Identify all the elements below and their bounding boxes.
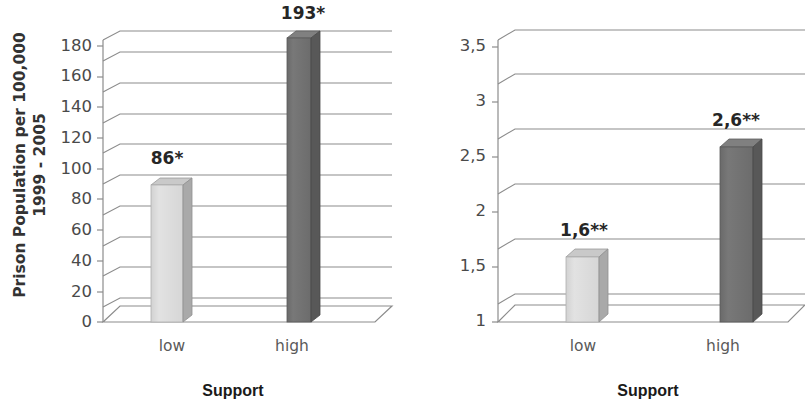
right-ytick-1: 1	[440, 311, 486, 330]
right-category-low: low	[543, 337, 623, 355]
left-bar-low[interactable]	[151, 178, 192, 322]
left-ytick-140: 140	[46, 97, 92, 116]
left-bar-high[interactable]	[287, 31, 320, 322]
left-ytick-120: 120	[46, 128, 92, 147]
left-x-axis-title: Support	[163, 382, 303, 400]
right-x-axis-title: Support	[578, 382, 718, 400]
right-value-label-low: 1,6**	[542, 220, 626, 240]
right-ytick-2: 2	[440, 201, 486, 220]
left-floor	[103, 306, 392, 322]
chart-panel-prison-conditions: Prison Conditions 1999 - 2005 3,5 3 2,5 …	[402, 0, 805, 409]
figure-root: Prison Population per 100,000 1999 - 200…	[0, 0, 805, 409]
left-ytick-100: 100	[46, 159, 92, 178]
left-category-low: low	[132, 337, 212, 355]
left-ytick-160: 160	[46, 66, 92, 85]
left-category-high: high	[252, 337, 332, 355]
right-ytick-3-5: 3,5	[440, 36, 486, 55]
left-y-axis	[97, 40, 103, 322]
right-bar-low[interactable]	[566, 249, 608, 322]
left-gridlines	[103, 31, 392, 307]
left-ytick-60: 60	[46, 220, 92, 239]
right-category-high: high	[683, 337, 763, 355]
right-bar-high[interactable]	[720, 139, 762, 322]
right-ytick-1-5: 1,5	[440, 256, 486, 275]
left-ytick-40: 40	[46, 251, 92, 270]
left-y-axis-title-line1: Prison Population per 100,000	[10, 30, 30, 300]
left-ytick-180: 180	[46, 36, 92, 55]
left-ytick-20: 20	[46, 282, 92, 301]
chart-panel-prison-population: Prison Population per 100,000 1999 - 200…	[0, 0, 402, 409]
left-y-axis-title: Prison Population per 100,000 1999 - 200…	[10, 30, 50, 300]
right-y-axis	[492, 40, 498, 322]
right-ytick-2-5: 2,5	[440, 146, 486, 165]
right-ytick-3: 3	[440, 91, 486, 110]
right-value-label-high: 2,6**	[694, 110, 778, 130]
left-ytick-0: 0	[46, 312, 92, 331]
left-value-label-high: 193*	[263, 3, 343, 23]
left-value-label-low: 86*	[132, 148, 202, 168]
left-ytick-80: 80	[46, 189, 92, 208]
